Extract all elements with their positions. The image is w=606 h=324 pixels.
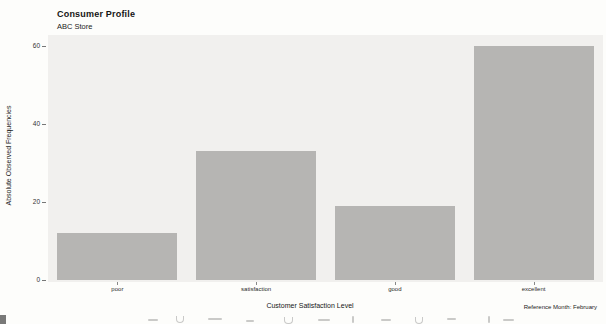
chart-subtitle: ABC Store [57, 22, 92, 31]
x-tick-good [395, 282, 396, 285]
y-tick-0: 0 [0, 276, 46, 285]
y-tick-label-60: 60 [33, 43, 40, 50]
y-tick-20: 20 [0, 198, 46, 207]
y-tick-dash-0 [42, 280, 46, 281]
y-axis-title: Absolute Observed Frequencies [5, 101, 12, 211]
chart-title: Consumer Profile [57, 9, 135, 19]
reference-note: Reference Month: February [524, 304, 597, 310]
bar-excellent [474, 46, 594, 280]
y-tick-label-40: 40 [33, 121, 40, 128]
x-tick-label-excellent: excellent [522, 286, 546, 292]
x-tick-poor [117, 282, 118, 285]
y-tick-60: 60 [0, 42, 46, 51]
y-tick-dash-60 [42, 46, 46, 47]
y-tick-40: 40 [0, 120, 46, 129]
x-tick-excellent [534, 282, 535, 285]
scanned-bar-chart-figure: Consumer Profile ABC Store Absolute Obse… [0, 0, 606, 324]
bar-satisfaction [196, 151, 316, 280]
x-tick-label-poor: poor [111, 286, 123, 292]
corner-smudge [0, 315, 6, 324]
y-tick-dash-40 [42, 124, 46, 125]
plot-panel [48, 35, 603, 282]
x-axis-title: Customer Satisfaction Level [266, 302, 353, 309]
x-tick-satisfaction [256, 282, 257, 285]
x-tick-label-good: good [388, 286, 401, 292]
y-tick-label-0: 0 [36, 277, 40, 284]
bar-poor [57, 233, 177, 280]
y-tick-label-20: 20 [33, 199, 40, 206]
x-tick-label-satisfaction: satisfaction [241, 286, 271, 292]
bar-good [335, 206, 455, 280]
y-tick-dash-20 [42, 202, 46, 203]
